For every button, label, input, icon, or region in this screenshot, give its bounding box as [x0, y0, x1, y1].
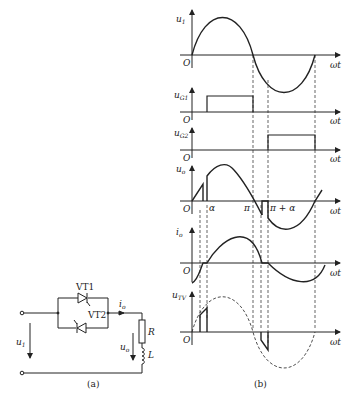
svg-text:O: O [183, 58, 191, 68]
svg-text:uG2: uG2 [174, 128, 189, 139]
svg-text:io: io [176, 227, 183, 238]
svg-text:(a): (a) [87, 379, 99, 389]
svg-text:uo: uo [176, 164, 186, 175]
svg-text:π + α: π + α [269, 203, 295, 213]
svg-text:O: O [183, 335, 191, 345]
svg-text:O: O [183, 266, 191, 276]
svg-text:ωt: ωt [330, 268, 341, 278]
waveform-diagram: u1 O ωt uG1 O ωt uG2 O ωt uo O α π π + α… [0, 0, 358, 408]
svg-text:ωt: ωt [330, 206, 341, 216]
svg-text:ωt: ωt [330, 337, 341, 347]
svg-text:O: O [183, 115, 191, 125]
circuit [20, 293, 145, 375]
svg-text:R: R [147, 327, 155, 337]
svg-text:uG1: uG1 [174, 90, 188, 101]
svg-text:uTV: uTV [172, 290, 187, 301]
svg-text:L: L [147, 350, 154, 360]
svg-text:O: O [183, 153, 191, 163]
svg-text:ωt: ωt [330, 154, 341, 164]
svg-text:io: io [119, 299, 126, 310]
svg-text:u1: u1 [16, 337, 26, 348]
svg-text:VT2: VT2 [87, 310, 106, 320]
svg-text:uo: uo [120, 342, 130, 353]
svg-text:VT1: VT1 [75, 282, 94, 292]
svg-text:α: α [209, 203, 215, 213]
waveforms [180, 10, 340, 368]
svg-text:u1: u1 [176, 14, 186, 25]
svg-text:(b): (b) [254, 379, 267, 389]
svg-text:π: π [243, 203, 251, 213]
svg-text:O: O [183, 204, 191, 214]
svg-text:ωt: ωt [330, 60, 341, 70]
svg-text:ωt: ωt [330, 116, 341, 126]
figure: u1 O ωt uG1 O ωt uG2 O ωt uo O α π π + α… [0, 0, 358, 408]
